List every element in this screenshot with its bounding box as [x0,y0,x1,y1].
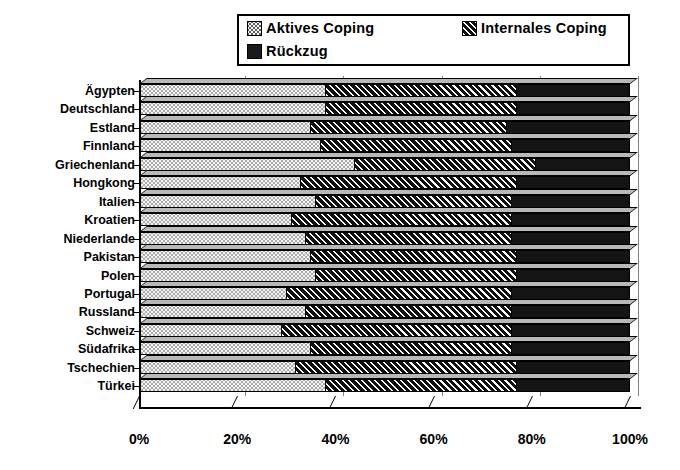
bar-stack [139,379,630,392]
y-axis-tick [134,368,139,369]
y-axis-tick [134,183,139,184]
y-axis-label-polen: Polen [4,270,135,282]
y-axis-label-italien: Italien [4,196,135,208]
bar-segment-aktives-coping [140,85,326,96]
x-axis-tick-label: 20% [207,431,267,447]
legend-label-internales-coping: Internales Coping [481,20,607,36]
bar-segment-aktives-coping [140,306,306,317]
y-axis-tick [134,128,139,129]
bar-stack [139,305,630,318]
legend-swatch-hatch-icon [462,21,477,36]
legend-item-aktives-coping: Aktives Coping [247,20,462,36]
bar-segment-aktives-coping [140,325,282,336]
bar-stack [139,176,630,189]
plot-area [139,76,640,407]
bar-segment-aktives-coping [140,214,292,225]
bar-segment-aktives-coping [140,380,326,391]
y-axis-line [139,80,141,409]
y-axis-label-hongkong: Hongkong [4,177,135,189]
y-axis-tick [134,331,139,332]
bar-segment-aktives-coping [140,196,316,207]
bar-segment-internales-coping [355,159,536,170]
legend-label-rueckzug: Rückzug [266,43,328,59]
bar-segment-internales-coping [282,325,512,336]
bar-segment-aktives-coping [140,103,326,114]
bar-segment-aktives-coping [140,177,301,188]
bar-stack [139,342,630,355]
y-axis-label-trkei: Türkei [4,380,135,392]
x-axis-tick-label: 40% [305,431,365,447]
y-axis-label-deutschland: Deutschland [4,103,135,115]
y-axis-tick [134,294,139,295]
y-axis-label-russland: Russland [4,306,135,318]
legend-row-2: Rückzug [247,43,622,66]
bar-segment-rueckzug [512,325,629,336]
y-axis-label-pakistan: Pakistan [4,251,135,263]
bar-segment-aktives-coping [140,288,287,299]
y-axis-label-portugal: Portugal [4,288,135,300]
bar-segment-internales-coping [287,288,512,299]
bar-segment-rueckzug [517,380,629,391]
bar-segment-aktives-coping [140,233,306,244]
y-axis-tick [134,220,139,221]
bar-segment-rueckzug [517,270,629,281]
bar-segment-rueckzug [517,251,629,262]
bar-segment-internales-coping [311,251,516,262]
bar-segment-rueckzug [512,288,629,299]
bar-segment-internales-coping [306,306,511,317]
legend-item-internales-coping: Internales Coping [462,20,607,36]
bar-segment-internales-coping [311,122,507,133]
y-axis-label-gypten: Ägypten [4,85,135,97]
bar-segment-internales-coping [316,196,512,207]
bar-segment-aktives-coping [140,140,321,151]
y-axis-tick [134,91,139,92]
bar-stack [139,102,630,115]
legend-label-aktives-coping: Aktives Coping [266,20,374,36]
bar-segment-internales-coping [306,233,511,244]
legend-item-rueckzug: Rückzug [247,43,328,59]
bar-stack [139,139,630,152]
bar-segment-rueckzug [512,343,629,354]
bar-segment-aktives-coping [140,343,311,354]
bar-stack [139,324,630,337]
y-axis-label-tschechien: Tschechien [4,362,135,374]
bar-segment-rueckzug [512,214,629,225]
bar-segment-internales-coping [311,343,511,354]
x-axis-tick-label: 80% [502,431,562,447]
bar-segment-rueckzug [512,196,629,207]
y-axis-tick [134,109,139,110]
bar-segment-rueckzug [517,103,629,114]
legend-swatch-solid-icon [247,44,262,59]
bar-segment-internales-coping [326,103,517,114]
chart-legend: Aktives Coping Internales Coping Rückzug [237,14,630,66]
bar-stack [139,158,630,171]
y-axis-label-estland: Estland [4,122,135,134]
bar-segment-aktives-coping [140,270,316,281]
bar-segment-internales-coping [326,85,517,96]
y-axis-label-niederlande: Niederlande [4,233,135,245]
y-axis-tick [134,202,139,203]
bar-segment-rueckzug [517,85,629,96]
bar-stack [139,232,630,245]
x-axis-tick-label: 100% [600,431,660,447]
x-axis-line [139,407,641,409]
y-axis-tick [134,257,139,258]
y-axis-category-labels: ÄgyptenDeutschlandEstlandFinnlandGrieche… [4,84,135,402]
x-axis-tick-label: 60% [404,431,464,447]
x-axis-tick-label: 0% [109,431,169,447]
legend-swatch-dotted-icon [247,21,262,36]
bar-segment-aktives-coping [140,362,296,373]
bar-segment-internales-coping [316,270,516,281]
bar-segment-aktives-coping [140,122,311,133]
bar-stack [139,361,630,374]
y-axis-label-schweiz: Schweiz [4,325,135,337]
bar-stack [139,250,630,263]
bar-stack [139,269,630,282]
stacked-bar-chart: Aktives Coping Internales Coping Rückzug… [0,0,680,470]
y-axis-label-finnland: Finnland [4,140,135,152]
grid-line [638,76,639,396]
bar-stack [139,121,630,134]
bar-segment-aktives-coping [140,251,311,262]
y-axis-label-kroatien: Kroatien [4,214,135,226]
y-axis-tick [134,165,139,166]
